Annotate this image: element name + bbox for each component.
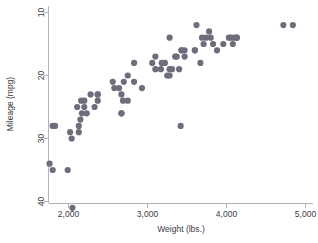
data-point (125, 72, 131, 78)
data-point (77, 117, 83, 123)
x-tick-label-5000: 5,000 (295, 209, 317, 219)
data-point (226, 35, 232, 41)
data-point (118, 110, 124, 116)
data-point (79, 110, 85, 116)
data-point (178, 123, 184, 129)
data-point (50, 167, 56, 173)
data-point (214, 47, 220, 53)
data-point (121, 79, 127, 85)
data-point (111, 85, 117, 91)
data-point (65, 167, 71, 173)
plot-canvas: 10 20 30 40 2,000 3,000 4,000 5,000 Weig… (0, 0, 318, 243)
figure-background (0, 0, 318, 243)
data-point (74, 104, 80, 110)
data-point (95, 98, 101, 104)
data-point (290, 22, 296, 28)
scatter-plot-figure: 10 20 30 40 2,000 3,000 4,000 5,000 Weig… (0, 0, 318, 243)
data-point (95, 91, 101, 97)
data-point (220, 41, 226, 47)
data-point (131, 60, 137, 66)
data-point (210, 41, 216, 47)
data-point (176, 66, 182, 72)
data-point (69, 205, 75, 211)
data-point (139, 85, 145, 91)
data-point (174, 54, 180, 60)
data-point (182, 54, 188, 60)
data-point (81, 104, 87, 110)
data-point (110, 79, 116, 85)
data-point (152, 54, 158, 60)
data-point (192, 47, 198, 53)
data-point (208, 35, 214, 41)
data-point (67, 129, 73, 135)
data-point (197, 60, 203, 66)
y-tick-label-10: 10 (36, 8, 46, 18)
data-point (52, 123, 58, 129)
data-point (118, 91, 124, 97)
x-axis-title: Weight (lbs.) (157, 224, 205, 234)
data-point (280, 22, 286, 28)
data-point (167, 72, 173, 78)
data-point (125, 98, 131, 104)
y-axis-title: Mileage (mpg) (5, 77, 15, 131)
data-point (162, 60, 168, 66)
data-point (193, 22, 199, 28)
data-point (76, 129, 82, 135)
data-point (76, 123, 82, 129)
x-tick-label-4000: 4,000 (216, 209, 238, 219)
data-point (167, 35, 173, 41)
y-tick-label-40: 40 (36, 197, 46, 207)
x-tick-label-3000: 3,000 (137, 209, 159, 219)
data-point (69, 135, 75, 141)
data-point (91, 104, 97, 110)
data-point (206, 28, 212, 34)
data-point (88, 91, 94, 97)
data-point (200, 41, 206, 47)
data-point (182, 47, 188, 53)
y-tick-label-20: 20 (36, 71, 46, 81)
data-point (158, 66, 164, 72)
data-point (78, 98, 84, 104)
data-point (149, 60, 155, 66)
data-point (131, 79, 137, 85)
x-tick-label-2000: 2,000 (58, 209, 80, 219)
data-point (230, 41, 236, 47)
data-point (46, 161, 52, 167)
data-point (152, 66, 158, 72)
y-tick-label-30: 30 (36, 134, 46, 144)
data-point (167, 66, 173, 72)
